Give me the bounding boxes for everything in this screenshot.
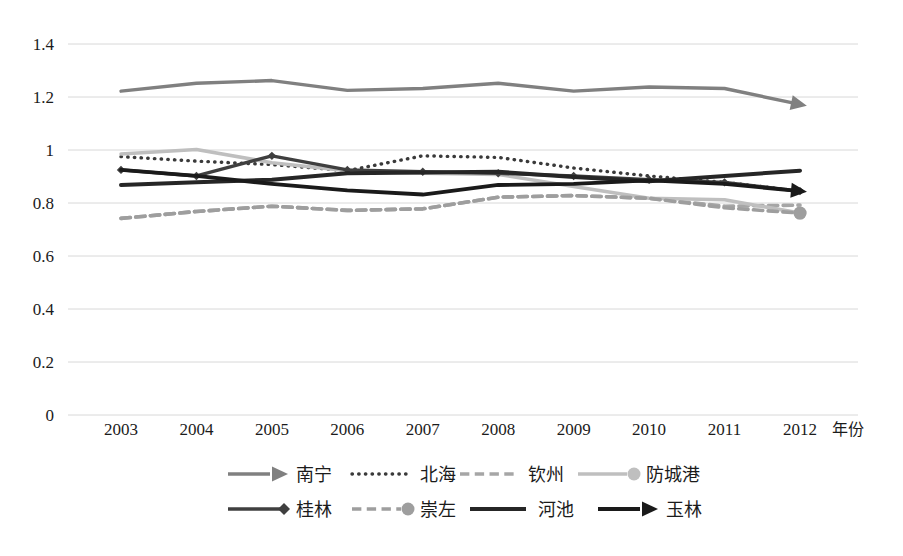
series-南宁 [121,81,807,110]
x-axis-title: 年份 [832,421,864,438]
x-tick-label: 2009 [557,420,591,439]
legend-item-河池[interactable]: 河池 [470,500,574,520]
y-axis-tick-labels: 00.20.40.60.811.21.4 [33,35,55,425]
legend-label: 北海 [420,465,456,485]
x-tick-label: 2004 [179,420,214,439]
x-tick-label: 2006 [330,420,364,439]
line-chart: 00.20.40.60.811.21.4 2003200420052006200… [0,0,903,556]
legend-label: 崇左 [420,500,456,520]
legend-diamond-marker [278,503,290,515]
legend-label: 河池 [538,500,574,520]
legend-label: 南宁 [296,465,332,485]
legend-label: 钦州 [528,465,564,485]
y-tick-label: 0.2 [33,353,54,372]
end-arrow-marker [790,183,807,198]
x-tick-label: 2008 [481,420,515,439]
legend-item-北海[interactable]: 北海 [352,465,456,485]
legend-item-防城港[interactable]: 防城港 [578,465,700,485]
x-axis-tick-labels: 2003200420052006200720082009201020112012 [104,420,817,439]
data-point-marker [268,152,276,160]
legend-arrow-marker [272,467,288,482]
x-tick-label: 2007 [406,420,441,439]
y-tick-label: 1 [46,141,55,160]
x-tick-label: 2003 [104,420,138,439]
legend-label: 防城港 [646,465,700,485]
legend-label: 桂林 [296,500,332,520]
y-tick-label: 0.8 [33,194,54,213]
x-tick-label: 2005 [255,420,289,439]
series-line [121,81,800,105]
x-tick-label: 2012 [783,420,817,439]
legend-item-桂林[interactable]: 桂林 [228,500,332,520]
y-tick-label: 1.4 [33,35,55,54]
legend-item-崇左[interactable]: 崇左 [352,500,456,520]
end-circle-marker [794,207,807,220]
legend-arrow-marker [642,502,658,517]
legend-circle-marker [402,503,415,516]
legend-item-钦州[interactable]: 钦州 [460,465,564,485]
chart-legend: 南宁北海钦州防城港桂林崇左河池玉林 [228,465,702,520]
y-tick-label: 0.4 [33,300,55,319]
legend-label: 玉林 [666,500,702,520]
chart-canvas: 00.20.40.60.811.21.4 2003200420052006200… [0,0,903,556]
legend-item-南宁[interactable]: 南宁 [228,465,332,485]
x-tick-label: 2011 [708,420,741,439]
y-tick-label: 1.2 [33,88,54,107]
x-tick-label: 2010 [632,420,666,439]
gridlines [68,44,858,415]
y-tick-label: 0 [46,406,55,425]
legend-circle-marker [628,468,641,481]
legend-item-玉林[interactable]: 玉林 [598,500,702,520]
y-tick-label: 0.6 [33,247,54,266]
